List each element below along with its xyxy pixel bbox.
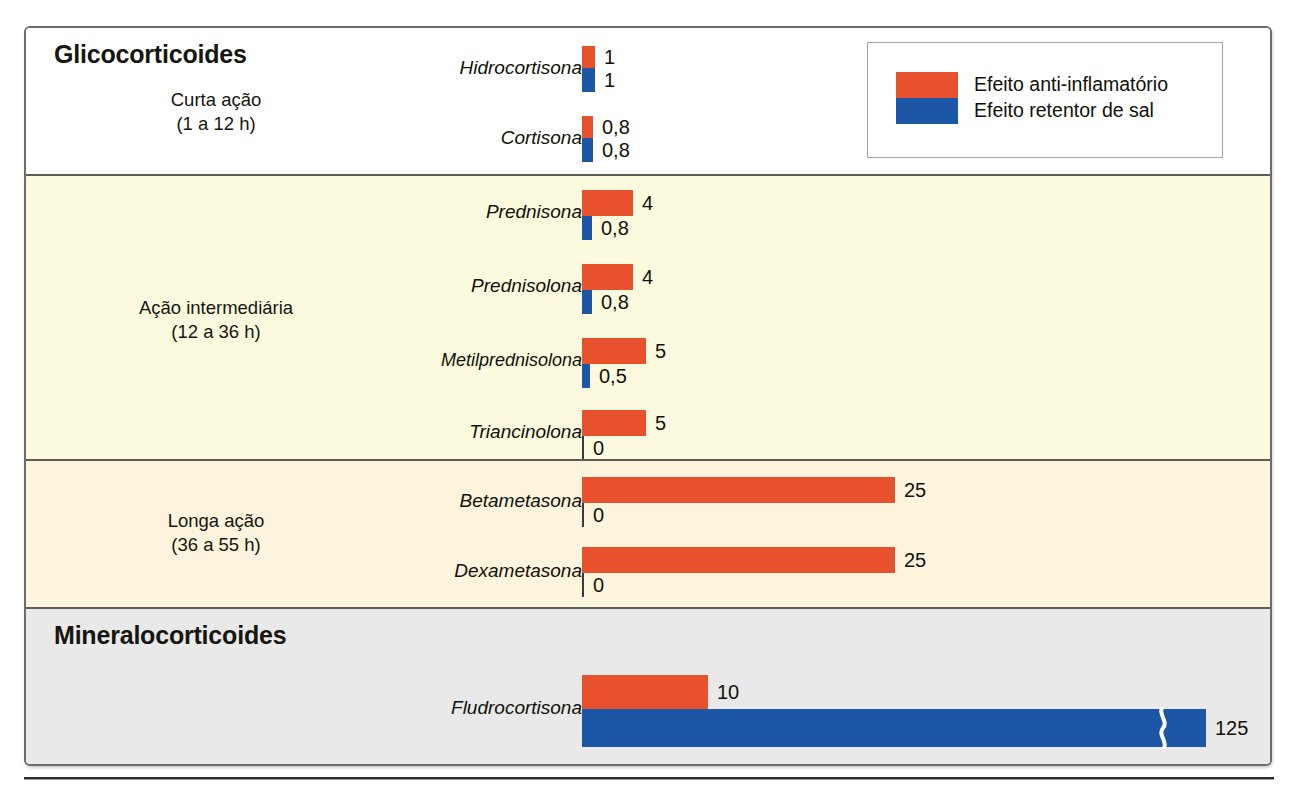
bar-anti-inflammatory-cortisona	[582, 116, 593, 138]
bar-value-anti-inflammatory-prednisona: 4	[633, 192, 653, 215]
bar-label-cortisona: Cortisona	[162, 127, 591, 149]
bars-prednisona: 4 0,8	[582, 184, 1182, 240]
bar-anti-inflammatory-hidrocortisona	[582, 46, 595, 68]
bar-anti-inflammatory-prednisona	[582, 190, 633, 216]
bar-anti-inflammatory-fludrocortisona	[582, 675, 708, 709]
bar-anti-inflammatory-triancinolona	[582, 410, 646, 436]
bar-value-anti-inflammatory-prednisolona: 4	[633, 266, 653, 289]
bar-salt-retention-prednisona	[582, 216, 592, 240]
bar-value-anti-inflammatory-hidrocortisona: 1	[595, 46, 615, 69]
bar-value-salt-retention-prednisolona: 0,8	[592, 291, 629, 314]
bar-anti-inflammatory-prednisolona	[582, 264, 633, 290]
bar-value-salt-retention-triancinolona: 0	[584, 437, 604, 460]
bar-value-anti-inflammatory-dexametasona: 25	[895, 549, 926, 572]
legend-label-anti-inflammatory: Efeito anti-inflamatório	[974, 73, 1168, 96]
legend-label-salt-retention: Efeito retentor de sal	[974, 99, 1154, 122]
bar-salt-retention-prednisolona	[582, 290, 592, 314]
bar-value-anti-inflammatory-cortisona: 0,8	[593, 116, 630, 139]
bar-anti-inflammatory-metilprednisolona	[582, 338, 646, 364]
bar-label-betametasona: Betametasona	[162, 490, 591, 512]
bar-value-salt-retention-betametasona: 0	[584, 504, 604, 527]
bar-label-prednisolona: Prednisolona	[162, 275, 591, 297]
section-mineralocorticoides: Mineralocorticoides Fludrocortisona 10 1…	[26, 607, 1270, 764]
rows-longa-acao: Betametasona 25 0 Dexametasona 25 0	[26, 461, 1270, 607]
bar-label-metilprednisolona: Metilprednisolona	[162, 350, 591, 371]
bar-anti-inflammatory-dexametasona	[582, 547, 895, 573]
bar-salt-retention-fludrocortisona	[582, 709, 1206, 747]
bar-value-anti-inflammatory-fludrocortisona: 10	[708, 681, 739, 704]
legend-swatch	[896, 72, 958, 124]
bar-label-prednisona: Prednisona	[162, 201, 591, 223]
bar-value-anti-inflammatory-betametasona: 25	[895, 479, 926, 502]
bars-betametasona: 25 0	[582, 473, 1242, 529]
bar-value-salt-retention-metilprednisolona: 0,5	[590, 365, 627, 388]
bar-value-salt-retention-dexametasona: 0	[584, 574, 604, 597]
bars-metilprednisolona: 5 0,5	[582, 332, 1182, 388]
bars-dexametasona: 25 0	[582, 543, 1242, 599]
legend-swatch-salt-retention	[896, 98, 958, 124]
bar-salt-retention-cortisona	[582, 138, 593, 162]
section-curta-acao: Glicocorticoides Curta ação (1 a 12 h) H…	[26, 28, 1270, 174]
bar-label-triancinolona: Triancinolona	[162, 421, 591, 443]
section-longa-acao: Longa ação (36 a 55 h) Betametasona 25 0…	[26, 459, 1270, 607]
rows-mineralocorticoides: Fludrocortisona 10 125	[26, 609, 1270, 764]
bar-value-salt-retention-hidrocortisona: 1	[595, 69, 615, 92]
bar-value-salt-retention-prednisona: 0,8	[592, 217, 629, 240]
chart-legend: Efeito anti-inflamatório Efeito retentor…	[867, 42, 1223, 158]
bar-salt-retention-metilprednisolona	[582, 364, 590, 388]
bar-value-salt-retention-cortisona: 0,8	[593, 139, 630, 162]
page-bottom-rule	[24, 777, 1274, 780]
bar-label-dexametasona: Dexametasona	[162, 560, 591, 582]
section-acao-intermediaria: Ação intermediária (12 a 36 h) Prednison…	[26, 174, 1270, 459]
bar-label-fludrocortisona: Fludrocortisona	[162, 697, 591, 719]
bar-label-hidrocortisona: Hidrocortisona	[162, 57, 591, 79]
bar-salt-retention-hidrocortisona	[582, 68, 595, 92]
legend-swatch-anti-inflammatory	[896, 72, 958, 98]
bar-value-anti-inflammatory-metilprednisolona: 5	[646, 340, 666, 363]
axis-break-icon	[1154, 707, 1172, 749]
potency-comparison-figure: Glicocorticoides Curta ação (1 a 12 h) H…	[24, 26, 1272, 766]
rows-acao-intermediaria: Prednisona 4 0,8 Prednisolona 4 0,8	[26, 176, 1270, 459]
bars-prednisolona: 4 0,8	[582, 258, 1182, 314]
bar-anti-inflammatory-betametasona	[582, 477, 895, 503]
bar-value-salt-retention-fludrocortisona: 125	[1206, 717, 1248, 740]
bar-value-anti-inflammatory-triancinolona: 5	[646, 412, 666, 435]
bars-triancinolona: 5 0	[582, 404, 1182, 460]
bars-fludrocortisona: 10 125	[582, 669, 1262, 747]
